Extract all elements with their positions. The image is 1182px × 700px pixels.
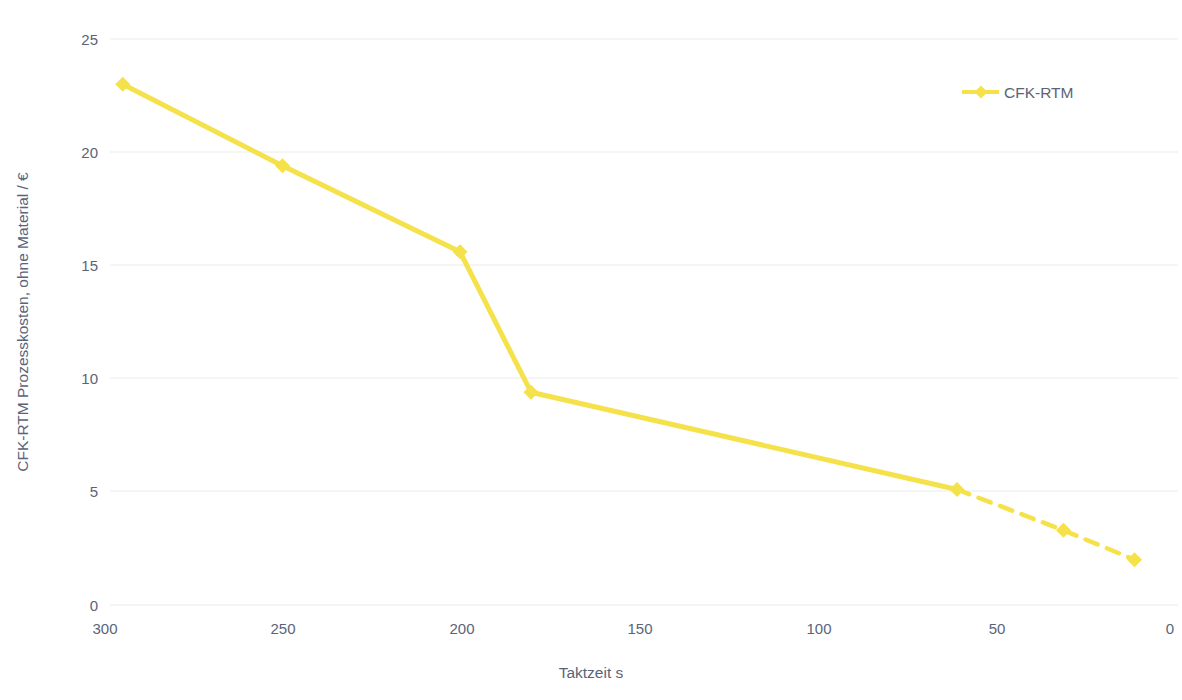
y-tick-label: 5	[90, 483, 98, 500]
x-axis-title: Taktzeit s	[559, 664, 624, 681]
y-tick-label: 25	[81, 31, 98, 48]
line-chart: 25 20 15 10 5 0 300 250 200 150 100 50 0	[0, 0, 1182, 700]
y-tick-label: 10	[81, 370, 98, 387]
y-tick-label: 0	[90, 597, 98, 614]
y-tick-label: 20	[81, 144, 98, 161]
y-axis-title: CFK-RTM Prozesskosten, ohne Material / €	[14, 172, 31, 472]
x-tick-label: 150	[627, 620, 652, 637]
x-tick-label: 100	[806, 620, 831, 637]
x-tick-label: 0	[1166, 620, 1174, 637]
chart-container: 25 20 15 10 5 0 300 250 200 150 100 50 0	[0, 0, 1182, 700]
x-tick-label: 250	[270, 620, 295, 637]
x-tick-label: 50	[989, 620, 1006, 637]
chart-background	[0, 0, 1182, 700]
legend-item-label: CFK-RTM	[1004, 84, 1073, 101]
x-tick-label: 300	[92, 620, 117, 637]
x-tick-label: 200	[449, 620, 474, 637]
y-tick-label: 15	[81, 257, 98, 274]
